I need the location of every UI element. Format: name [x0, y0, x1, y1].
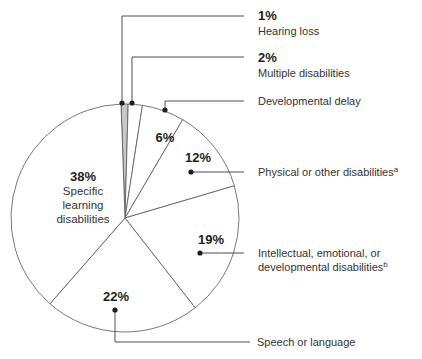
dot-developmental-delay	[162, 107, 167, 112]
label-speech: Speech or language	[257, 336, 355, 348]
leader-developmental-delay	[165, 101, 244, 110]
label-intellectual-line2: developmental disabilitiesb	[258, 260, 388, 273]
label-speech-pct: 22%	[103, 289, 129, 304]
label-hearing-loss-pct: 1%	[258, 8, 277, 23]
label-physical-sup: a	[394, 165, 399, 174]
dot-speech	[112, 307, 117, 312]
dot-physical	[188, 169, 193, 174]
label-devdelay-pct: 6%	[156, 130, 175, 145]
label-intellectual-text: developmental disabilities	[258, 261, 384, 273]
label-intellectual-line1: Intellectual, emotional, or	[258, 247, 381, 259]
label-physical-pct: 12%	[185, 150, 211, 165]
label-developmental-delay: Developmental delay	[258, 95, 361, 107]
label-hearing-loss: Hearing loss	[258, 25, 320, 37]
label-multiple: Multiple disabilities	[258, 67, 350, 79]
label-multiple-pct: 2%	[258, 50, 277, 65]
dot-intellectual	[197, 250, 202, 255]
dot-multiple-disabilities	[129, 100, 134, 105]
dot-hearing-loss	[119, 100, 124, 105]
label-physical-text: Physical or other disabilities	[258, 166, 394, 178]
label-sld-pct: 38%	[70, 169, 96, 184]
label-intellectual-sup: b	[383, 260, 388, 269]
label-sld-line2: learning	[63, 199, 104, 211]
leader-multiple-disabilities	[132, 57, 244, 103]
label-sld-line1: Specific	[63, 185, 104, 197]
pie-chart: 1% Hearing loss 2% Multiple disabilities…	[0, 0, 422, 359]
label-sld-line3: disabilities	[56, 213, 109, 225]
leader-hearing-loss	[122, 16, 244, 103]
label-physical: Physical or other disabilitiesa	[258, 165, 399, 178]
label-intellectual-pct: 19%	[198, 232, 224, 247]
